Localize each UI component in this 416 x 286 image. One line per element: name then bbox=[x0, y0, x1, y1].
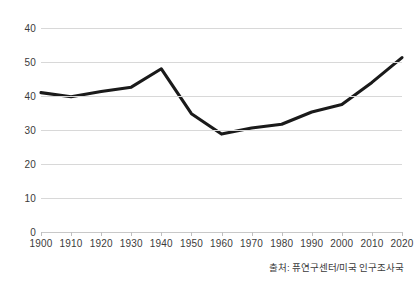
x-tick-label: 1980 bbox=[270, 238, 293, 249]
x-axis: 1900191019201930194019501960197019801990… bbox=[41, 232, 402, 262]
x-tick-label: 2000 bbox=[330, 238, 353, 249]
gridline bbox=[41, 130, 402, 131]
source-caption: 출처: 퓨연구센터/미국 인구조사국 bbox=[269, 260, 404, 274]
x-tick-mark bbox=[372, 232, 373, 236]
x-tick-label: 1950 bbox=[180, 238, 203, 249]
x-tick-mark bbox=[101, 232, 102, 236]
line-chart: 4050403020100 19001910192019301940195019… bbox=[0, 0, 416, 286]
y-axis: 4050403020100 bbox=[0, 28, 36, 232]
gridline bbox=[41, 96, 402, 97]
x-tick-label: 1900 bbox=[29, 238, 52, 249]
x-tick-mark bbox=[161, 232, 162, 236]
x-tick-mark bbox=[342, 232, 343, 236]
x-tick-mark bbox=[41, 232, 42, 236]
y-tick-label: 0 bbox=[30, 227, 36, 238]
x-tick-label: 1960 bbox=[210, 238, 233, 249]
x-tick-mark bbox=[131, 232, 132, 236]
x-tick-label: 1920 bbox=[90, 238, 113, 249]
x-tick-label: 1990 bbox=[300, 238, 323, 249]
gridline bbox=[41, 198, 402, 199]
x-tick-label: 1910 bbox=[60, 238, 83, 249]
y-tick-label: 10 bbox=[24, 193, 36, 204]
y-tick-label: 20 bbox=[24, 159, 36, 170]
x-tick-label: 1930 bbox=[120, 238, 143, 249]
x-tick-mark bbox=[312, 232, 313, 236]
y-tick-label: 30 bbox=[24, 125, 36, 136]
x-tick-mark bbox=[402, 232, 403, 236]
gridline bbox=[41, 164, 402, 165]
gridline bbox=[41, 28, 402, 29]
gridline bbox=[41, 62, 402, 63]
y-tick-label: 40 bbox=[24, 91, 36, 102]
x-tick-mark bbox=[222, 232, 223, 236]
x-tick-label: 1970 bbox=[240, 238, 263, 249]
x-tick-label: 1940 bbox=[150, 238, 173, 249]
x-tick-mark bbox=[282, 232, 283, 236]
x-tick-mark bbox=[252, 232, 253, 236]
y-tick-label: 40 bbox=[24, 23, 36, 34]
x-tick-mark bbox=[71, 232, 72, 236]
x-tick-label: 2020 bbox=[390, 238, 413, 249]
x-tick-mark bbox=[191, 232, 192, 236]
y-tick-label: 50 bbox=[24, 57, 36, 68]
x-tick-label: 2010 bbox=[360, 238, 383, 249]
